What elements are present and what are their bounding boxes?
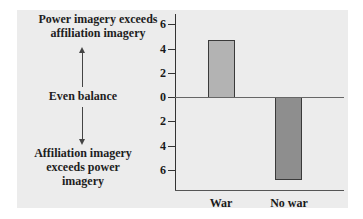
x-label-war: War xyxy=(191,196,251,211)
arrow-down-icon xyxy=(79,139,85,145)
bottom-annotation-line1: Affiliation imagery xyxy=(18,146,148,160)
bottom-annotation-line3: imagery xyxy=(18,174,148,188)
y-tick xyxy=(168,146,175,147)
y-tick-label: 6 xyxy=(152,18,166,30)
y-axis xyxy=(175,14,176,191)
zero-baseline xyxy=(175,97,344,98)
y-tick-label: 2 xyxy=(152,115,166,127)
y-tick xyxy=(168,121,175,122)
arrow-down-line xyxy=(82,107,83,140)
y-tick xyxy=(168,97,175,98)
middle-annotation: Even balance xyxy=(18,89,148,103)
bar-war xyxy=(208,40,235,98)
y-tick-label: 0 xyxy=(152,91,166,103)
y-tick xyxy=(168,170,175,171)
bottom-annotation-line2: exceeds power xyxy=(18,160,148,174)
y-tick-label: 4 xyxy=(152,43,166,55)
y-tick xyxy=(168,73,175,74)
bottom-annotation: Affiliation imagery exceeds power imager… xyxy=(18,146,148,188)
y-tick-label: 2 xyxy=(152,67,166,79)
y-tick xyxy=(168,24,175,25)
x-axis xyxy=(175,190,344,191)
y-tick xyxy=(168,49,175,50)
y-tick-label: 6 xyxy=(152,164,166,176)
bar-no-war xyxy=(275,97,302,180)
x-label-no-war: No war xyxy=(259,196,319,211)
y-tick-label: 4 xyxy=(152,140,166,152)
arrow-up-line xyxy=(82,52,83,87)
